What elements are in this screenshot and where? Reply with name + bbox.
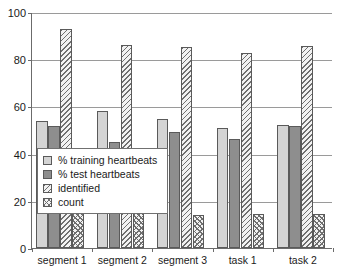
legend-swatch-icon — [43, 156, 52, 165]
bar — [72, 213, 84, 248]
x-axis-label: task 2 — [289, 255, 317, 266]
y-axis-label: 0 — [20, 244, 26, 255]
x-tick-mark — [152, 248, 153, 252]
y-tick-mark — [28, 155, 32, 156]
x-tick-mark — [213, 248, 214, 252]
bar — [253, 214, 265, 248]
x-axis-label: segment 2 — [98, 255, 147, 266]
legend-item[interactable]: count — [43, 195, 157, 209]
y-axis-label: 60 — [14, 102, 26, 113]
bar — [181, 47, 193, 248]
bar — [121, 45, 133, 248]
y-tick-mark — [28, 60, 32, 61]
x-axis-label: task 1 — [229, 255, 257, 266]
legend-item-label: count — [58, 197, 84, 208]
x-tick-mark — [92, 248, 93, 252]
legend-item[interactable]: identified — [43, 181, 157, 195]
x-axis-label: segment 1 — [38, 255, 87, 266]
bar-chart: 020406080100segment 1segment 2segment 3t… — [0, 0, 337, 275]
y-tick-mark — [28, 13, 32, 14]
bar — [241, 53, 253, 248]
legend-swatch-icon — [43, 170, 52, 179]
chart-legend: % training heartbeats% test heartbeatsid… — [37, 148, 168, 214]
bar — [289, 126, 301, 248]
bar — [301, 46, 313, 248]
legend-item[interactable]: % test heartbeats — [43, 167, 157, 181]
bar — [133, 213, 145, 248]
y-tick-mark — [28, 202, 32, 203]
y-axis-label: 80 — [14, 55, 26, 66]
legend-swatch-icon — [43, 184, 52, 193]
x-axis-label: segment 3 — [158, 255, 207, 266]
x-tick-mark — [273, 248, 274, 252]
bar — [313, 214, 325, 248]
x-tick-mark — [333, 248, 334, 252]
y-axis-label: 40 — [14, 149, 26, 160]
y-axis-label: 20 — [14, 196, 26, 207]
legend-item[interactable]: % training heartbeats — [43, 153, 157, 167]
legend-item-label: % test heartbeats — [58, 169, 140, 180]
x-tick-mark — [32, 248, 33, 252]
bar — [193, 215, 205, 248]
legend-item-label: identified — [58, 183, 100, 194]
bar — [229, 139, 241, 248]
legend-item-label: % training heartbeats — [58, 155, 157, 166]
y-tick-mark — [28, 107, 32, 108]
y-axis-label: 100 — [8, 8, 26, 19]
y-gridline — [32, 13, 332, 14]
bar — [60, 29, 72, 248]
legend-swatch-icon — [43, 198, 52, 207]
bar — [169, 132, 181, 248]
bar — [217, 128, 229, 248]
bar — [277, 125, 289, 248]
